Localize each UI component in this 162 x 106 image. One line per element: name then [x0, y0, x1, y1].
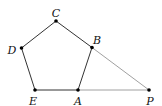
label-p: P — [145, 95, 154, 106]
geometry-diagram: ABCDEP — [0, 0, 162, 106]
auxiliary-segments — [78, 48, 149, 91]
label-a: A — [73, 95, 82, 106]
label-b: B — [92, 34, 101, 47]
point-a — [76, 88, 80, 92]
point-e — [33, 88, 37, 92]
label-d: D — [7, 44, 17, 57]
label-e: E — [28, 95, 37, 106]
point-p — [147, 88, 151, 92]
label-c: C — [52, 7, 61, 20]
segment-bp — [92, 48, 149, 91]
point-d — [20, 46, 24, 50]
pentagon-abcde — [22, 21, 93, 90]
vertex-labels: ABCDEP — [7, 7, 155, 106]
vertex-points — [20, 19, 151, 92]
